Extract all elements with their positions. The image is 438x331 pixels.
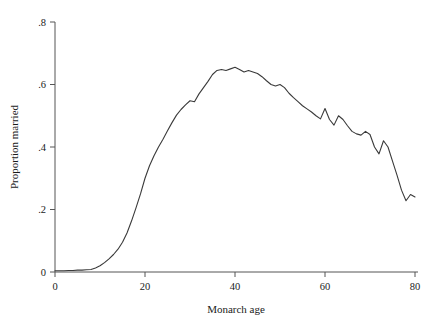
y-tick-label: 0	[41, 267, 46, 278]
x-tick-label: 40	[230, 281, 241, 292]
x-tick-label: 20	[140, 281, 151, 292]
x-tick-label: 80	[410, 281, 421, 292]
x-tick-label: 60	[320, 281, 331, 292]
y-tick-label: .8	[38, 17, 46, 28]
y-tick-label: .6	[38, 79, 46, 90]
y-tick-label: .2	[38, 204, 46, 215]
x-axis-label: Monarch age	[207, 303, 265, 315]
y-axis-label: Proportion married	[8, 104, 20, 189]
chart-figure: 0.2.4.6.8 020406080 Monarch age Proporti…	[0, 0, 438, 331]
chart-background	[0, 0, 438, 331]
x-tick-label: 0	[52, 281, 57, 292]
y-tick-label: .4	[38, 142, 47, 153]
